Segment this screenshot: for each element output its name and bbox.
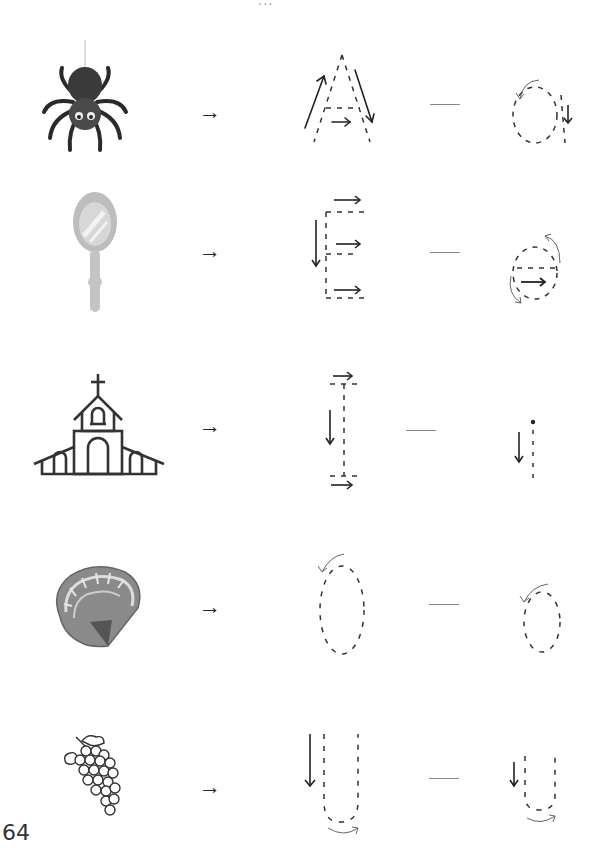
trace-uppercase-u[interactable]: [300, 730, 370, 840]
separator-line: [430, 104, 460, 105]
separator-line: [406, 430, 436, 431]
trace-lowercase-e[interactable]: [505, 228, 575, 308]
arrow-right-icon: →: [199, 780, 225, 794]
arrow-right-icon: →: [199, 419, 225, 433]
arrow-right-icon: →: [199, 105, 225, 119]
grapes-icon: [60, 733, 130, 818]
page-number: 64: [2, 820, 30, 845]
separator-line: [429, 778, 459, 779]
hand-mirror-icon: [70, 190, 120, 320]
trace-lowercase-u[interactable]: [505, 752, 565, 832]
trace-uppercase-a[interactable]: [300, 50, 380, 150]
trace-uppercase-e[interactable]: [308, 190, 378, 305]
separator-line: [429, 604, 459, 605]
trace-uppercase-i[interactable]: [318, 370, 368, 490]
seashell-icon: [50, 562, 145, 652]
spider-icon: [40, 40, 130, 155]
arrow-right-icon: →: [199, 600, 225, 614]
trace-uppercase-o[interactable]: [310, 550, 380, 660]
trace-lowercase-o[interactable]: [512, 582, 572, 657]
page-header-partial: ...: [258, 0, 438, 5]
separator-line: [430, 252, 460, 253]
trace-lowercase-i[interactable]: [512, 418, 542, 480]
arrow-right-icon: →: [199, 244, 225, 258]
trace-lowercase-a[interactable]: [505, 75, 575, 145]
church-icon: [32, 374, 166, 479]
